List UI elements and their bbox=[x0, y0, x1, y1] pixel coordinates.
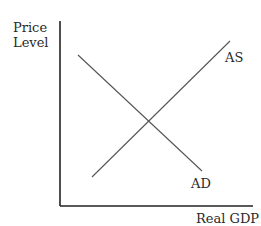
y-axis-label-line1: Price bbox=[13, 20, 49, 35]
y-axis-label: Price Level bbox=[13, 20, 49, 50]
ad-curve-label: AD bbox=[191, 176, 211, 191]
ad-curve bbox=[78, 55, 202, 171]
x-axis-label: Real GDP bbox=[196, 211, 259, 226]
as-curve bbox=[92, 41, 230, 177]
y-axis-label-line2: Level bbox=[13, 35, 49, 50]
as-curve-label: AS bbox=[225, 50, 243, 65]
